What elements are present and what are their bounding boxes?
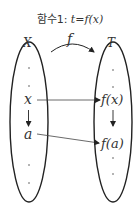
domain-label: X [22, 36, 32, 50]
domain-dot [28, 67, 30, 69]
domain-element-a: a [24, 126, 32, 142]
domain-dot [28, 85, 30, 87]
mapping-arrow-icon [51, 44, 94, 52]
arrow-a-to-fa-icon [37, 134, 99, 143]
domain-dot [28, 182, 30, 184]
domain-dot [28, 164, 30, 166]
codomain-dot [112, 86, 114, 88]
codomain-dot [112, 173, 114, 175]
codomain-label: T [107, 36, 116, 50]
codomain-element-fa: f(a) [100, 136, 124, 151]
domain-element-x: x [24, 91, 32, 107]
domain-set-ellipse [10, 42, 48, 202]
codomain-dot [112, 69, 114, 71]
codomain-dot [112, 157, 114, 159]
codomain-element-fx: f(x) [100, 92, 123, 107]
mapping-label: f [66, 31, 75, 47]
function-mapping-diagram: X T f x f(x) a f(a) [0, 0, 140, 222]
